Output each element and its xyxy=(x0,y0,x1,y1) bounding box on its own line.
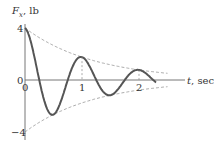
x-axis-unit: , sec xyxy=(191,75,214,86)
force-curve xyxy=(25,28,156,115)
damped-force-chart: 01240−4 Fx, lb t, sec xyxy=(0,0,214,148)
x-tick-label: 2 xyxy=(136,82,142,93)
y-tick-label: −4 xyxy=(11,127,26,138)
x-axis-label: t, sec xyxy=(187,75,214,86)
y-axis-unit: , lb xyxy=(23,5,39,16)
y-tick-label: 0 xyxy=(17,75,23,86)
axes xyxy=(25,24,185,140)
x-tick-label: 1 xyxy=(79,82,85,93)
curve-group xyxy=(25,28,156,115)
upper-envelope xyxy=(25,28,168,73)
y-tick-label: 4 xyxy=(17,23,23,34)
y-axis-label: Fx, lb xyxy=(11,5,39,19)
